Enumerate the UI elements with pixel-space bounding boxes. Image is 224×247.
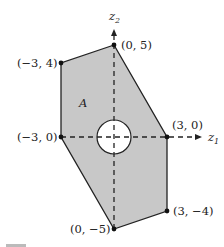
vertex-label-0-5: (0, 5) — [121, 38, 152, 52]
vertex-label-m3-0: (−3, 0) — [17, 130, 58, 144]
vertex-label-3-0: (3, 0) — [172, 118, 203, 132]
z1-subscript: 1 — [214, 137, 219, 146]
vertex-label-m3-4: (−3, 4) — [17, 56, 58, 70]
vertex-label-3-m4: (3, −4) — [173, 204, 214, 218]
z2-arrow-icon — [111, 29, 117, 36]
vertex-label-0-m5: (0, −5) — [70, 222, 111, 236]
z1-arrow-icon — [195, 134, 202, 140]
z1-axis-label: z1 — [207, 130, 219, 146]
z2-subscript: 2 — [114, 16, 120, 25]
diagram-canvas: (0, 5) (−3, 4) (−3, 0) (3, 0) (3, −4) (0… — [0, 0, 224, 247]
region-label: A — [78, 96, 87, 110]
z2-axis-label: z2 — [108, 9, 120, 25]
